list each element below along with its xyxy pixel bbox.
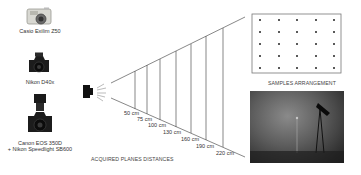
fan-top-edge [111, 17, 245, 83]
samples-photo [250, 91, 344, 163]
camera-icon [83, 85, 93, 98]
distance-label-100: 100 cm [148, 122, 166, 128]
distance-label-220: 220 cm [216, 150, 234, 156]
distance-label-130: 130 cm [163, 129, 181, 135]
tripod-photo-icon [250, 91, 344, 163]
light-rays [97, 84, 106, 101]
distance-label-160: 160 cm [181, 136, 199, 142]
planes-caption: ACQUIRED PLANES DISTANCES [91, 156, 174, 162]
samples-caption: SAMPLES ARRANGEMENT [268, 80, 336, 86]
fan-bottom-edge [111, 98, 245, 157]
distance-label-190: 190 cm [196, 143, 214, 149]
